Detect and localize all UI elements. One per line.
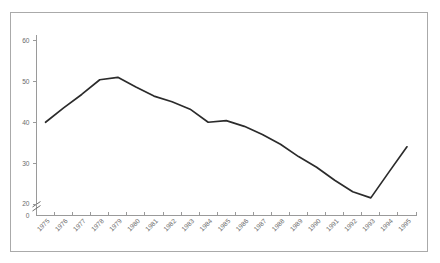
- y-tick-label: 60: [22, 37, 30, 44]
- x-tick-label: 1983: [180, 217, 196, 233]
- x-tick-label: 1984: [198, 217, 214, 233]
- y-tick-label: 30: [22, 160, 30, 167]
- axes-group: [33, 35, 417, 216]
- x-tick-label: 1982: [162, 217, 178, 233]
- x-tick-label: 1994: [379, 217, 395, 233]
- y-axis-ticks: 02030405060: [22, 37, 36, 219]
- x-tick-label: 1978: [90, 217, 106, 233]
- data-series-group: [46, 77, 407, 198]
- x-tick-label: 1992: [343, 217, 359, 233]
- x-tick-label: 1976: [53, 217, 69, 233]
- x-tick-label: 1985: [216, 217, 232, 233]
- x-tick-label: 1990: [306, 217, 322, 233]
- x-tick-label: 1991: [325, 217, 341, 233]
- chart-canvas: 02030405060 1975197619771978197919801981…: [0, 0, 440, 263]
- x-tick-label: 1986: [234, 217, 250, 233]
- x-tick-label: 1980: [126, 217, 142, 233]
- x-tick-label: 1988: [270, 217, 286, 233]
- x-tick-label: 1987: [252, 217, 268, 233]
- line-chart-figure: 02030405060 1975197619771978197919801981…: [0, 0, 440, 263]
- data-line-series-1: [46, 77, 407, 198]
- x-tick-label: 1981: [144, 217, 160, 233]
- x-tick-label: 1979: [108, 217, 124, 233]
- x-tick-label: 1989: [288, 217, 304, 233]
- x-tick-label: 1977: [72, 217, 88, 233]
- x-tick-label: 1995: [397, 217, 413, 233]
- x-tick-label: 1993: [361, 217, 377, 233]
- y-tick-label: 0: [26, 212, 30, 219]
- y-tick-label: 50: [22, 78, 30, 85]
- x-tick-label: 1975: [35, 217, 51, 233]
- y-tick-label: 20: [22, 200, 30, 207]
- y-tick-label: 40: [22, 119, 30, 126]
